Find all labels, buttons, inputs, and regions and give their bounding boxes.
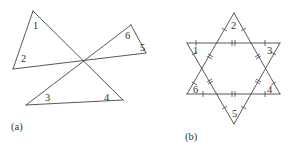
fig-a-transversal-3-6: [26, 25, 131, 105]
figure-canvas: 1 2 3 4 5 6 (a): [0, 0, 294, 150]
fig-a-angle-5: 5: [140, 42, 145, 53]
fig-a-angle-1: 1: [33, 20, 38, 31]
fig-b-angle-6: 6: [193, 84, 198, 95]
fig-a-transversal-1-4: [33, 11, 123, 100]
fig-b-angle-4: 4: [267, 84, 273, 95]
fig-b-caption: (b): [185, 131, 198, 143]
figure-b: 2 1 3 6 4 5 (b): [185, 13, 280, 143]
fig-a-angle-2: 2: [21, 53, 26, 64]
fig-b-angle-1: 1: [193, 45, 198, 56]
geometry-diagram: 1 2 3 4 5 6 (a): [0, 0, 294, 150]
fig-b-angle-5: 5: [232, 108, 237, 119]
fig-a-transversal-2-5: [13, 53, 146, 69]
fig-b-angle-2: 2: [231, 20, 236, 31]
fig-a-caption: (a): [11, 121, 23, 133]
fig-b-single-ticks: [192, 28, 276, 109]
fig-a-angle-6: 6: [125, 30, 130, 41]
figure-a: 1 2 3 4 5 6 (a): [11, 11, 146, 133]
fig-b-angle-3: 3: [267, 45, 272, 56]
fig-a-angle-4: 4: [104, 92, 110, 103]
fig-b-double-ticks: [207, 40, 261, 97]
fig-a-angle-3: 3: [45, 92, 50, 103]
